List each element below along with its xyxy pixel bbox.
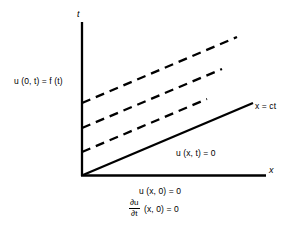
initial-displacement-label: u (x, 0) = 0 [139,186,181,196]
initial-velocity-label: ∂u ∂t (x, 0) = 0 [129,199,179,218]
solid-characteristic-line [83,103,253,175]
initial-velocity-equation-tail: (x, 0) = 0 [142,204,179,214]
partial-derivative-numerator: ∂u [129,199,140,209]
dashed-characteristic-line-2 [82,69,222,128]
dashed-characteristic-line-3 [82,37,237,103]
wave-equation-characteristics-figure: t x u (0, t) = f (t) x = ct u (x, t) = 0… [0,0,289,228]
x-axis-label: x [269,165,274,175]
dashed-characteristic-line-1 [82,99,207,152]
interior-solution-label: u (x, t) = 0 [176,148,216,158]
partial-derivative-fraction: ∂u ∂t [129,199,140,218]
t-axis-label: t [77,9,80,19]
boundary-condition-label: u (0, t) = f (t) [14,76,63,86]
partial-derivative-denominator: ∂t [129,209,140,218]
characteristic-line-label: x = ct [255,101,276,111]
